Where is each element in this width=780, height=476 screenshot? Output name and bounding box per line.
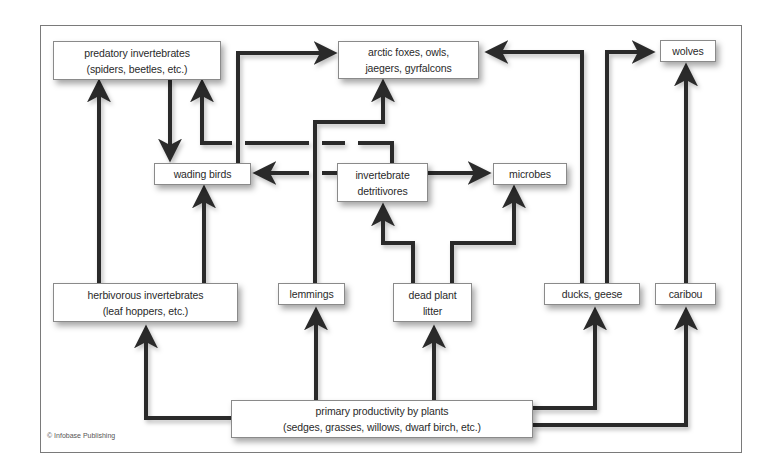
node-label: arctic foxes, owls, <box>368 44 449 60</box>
node-label: predatory invertebrates <box>84 45 190 61</box>
node-invertebrate-detritivores: invertebrate detritivores <box>337 163 428 202</box>
node-lemmings: lemmings <box>278 283 345 305</box>
node-ducks-geese: ducks, geese <box>544 283 640 305</box>
arrow-deadplant-to-detritivores <box>383 208 413 283</box>
node-predatory-invertebrates: predatory invertebrates (spiders, beetle… <box>53 41 221 80</box>
node-wolves: wolves <box>660 40 716 62</box>
node-label: wading birds <box>174 166 232 182</box>
node-label: caribou <box>669 286 703 302</box>
arrow-detritivores-to-predatory <box>358 143 392 163</box>
node-label: invertebrate <box>355 167 409 183</box>
node-label: microbes <box>509 166 551 182</box>
node-label: lemmings <box>289 286 333 302</box>
arrow-ducks-to-wolves <box>607 52 650 283</box>
node-label: primary productivity by plants <box>316 403 449 419</box>
node-microbes: microbes <box>493 163 567 185</box>
node-caribou: caribou <box>655 283 716 305</box>
node-dead-plant-litter: dead plant litter <box>393 283 472 322</box>
node-sublabel: jaegers, gyrfalcons <box>365 60 451 76</box>
node-sublabel: litter <box>423 303 442 319</box>
arrow-primary-to-herb <box>146 330 231 418</box>
node-sublabel: (spiders, beetles, etc.) <box>87 61 188 77</box>
arrow-deadplant-to-microbes <box>452 190 514 283</box>
copyright-credit: © Infobase Publishing <box>47 432 115 439</box>
node-sublabel: (leaf hoppers, etc.) <box>103 303 189 319</box>
node-label: dead plant <box>408 287 456 303</box>
arrow-primary-to-ducks <box>533 312 595 408</box>
node-primary-productivity: primary productivity by plants (sedges, … <box>231 400 533 438</box>
node-arctic-predators: arctic foxes, owls, jaegers, gyrfalcons <box>338 41 479 79</box>
node-sublabel: (sedges, grasses, willows, dwarf birch, … <box>283 419 481 435</box>
node-label: ducks, geese <box>562 286 623 302</box>
node-label: wolves <box>672 43 704 59</box>
arrow-wading-to-arctic <box>238 53 332 163</box>
node-sublabel: detritivores <box>357 183 407 199</box>
node-label: herbivorous invertebrates <box>88 287 204 303</box>
node-herbivorous-invertebrates: herbivorous invertebrates (leaf hoppers,… <box>53 283 238 322</box>
node-wading-birds: wading birds <box>154 163 251 185</box>
